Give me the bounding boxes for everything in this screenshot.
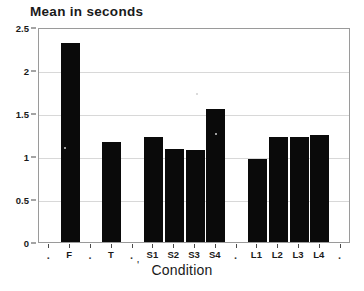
x-tick-label: . [47, 249, 50, 261]
x-tick-label: . [338, 249, 341, 261]
x-tick-mark [298, 244, 299, 248]
y-tick-label: 1.5 [16, 109, 29, 120]
x-tick-label: . [88, 249, 91, 261]
plot-area [38, 28, 350, 243]
x-axis: .F.T.S1S2S3S4.L1L2L3L4. [38, 244, 350, 262]
x-tick-mark [236, 244, 237, 248]
x-tick-mark [340, 244, 341, 248]
x-tick-label: F [66, 249, 72, 260]
x-tick-mark [319, 244, 320, 248]
x-tick-mark [132, 244, 133, 248]
x-tick-mark [90, 244, 91, 248]
x-tick-mark [215, 244, 216, 248]
bar-S3 [186, 150, 205, 242]
x-tick-label: . [130, 249, 133, 261]
x-tick-mark [194, 244, 195, 248]
bar-F [61, 43, 80, 242]
y-tick-mark [31, 243, 36, 244]
x-tick-mark [256, 244, 257, 248]
bar-L3 [290, 137, 309, 242]
x-tick-label: L3 [292, 249, 303, 260]
bar-L1 [248, 159, 267, 242]
x-tick-mark [48, 244, 49, 248]
x-tick-mark [277, 244, 278, 248]
x-axis-title: Condition [0, 262, 364, 278]
x-tick-label: T [108, 249, 114, 260]
scan-speck [196, 93, 198, 95]
x-tick-label: S2 [167, 249, 179, 260]
gridline [39, 72, 349, 73]
y-tick-mark [31, 28, 36, 29]
bar-S4 [206, 109, 225, 242]
y-axis: 00.511.522.5 [0, 28, 36, 243]
y-tick-mark [31, 114, 36, 115]
x-tick-label: L2 [272, 249, 283, 260]
x-tick-label: S4 [209, 249, 221, 260]
x-tick-mark [69, 244, 70, 248]
bar-S1 [144, 137, 163, 242]
x-tick-label: L4 [313, 249, 324, 260]
y-tick-label: 0.5 [16, 195, 29, 206]
x-tick-mark [111, 244, 112, 248]
scan-speck [215, 133, 217, 135]
bar-L2 [269, 137, 288, 242]
bar-T [102, 142, 121, 242]
bar-S2 [165, 149, 184, 242]
x-tick-label: . [234, 249, 237, 261]
y-tick-mark [31, 200, 36, 201]
y-tick-mark [31, 71, 36, 72]
y-tick-label: 2.5 [16, 23, 29, 34]
y-tick-label: 1 [24, 152, 29, 163]
chart-title: Mean in seconds [30, 4, 143, 19]
x-tick-mark [152, 244, 153, 248]
gridline [39, 115, 349, 116]
bar-chart: Mean in seconds 00.511.522.5 .F.T.S1S2S3… [0, 0, 364, 291]
y-tick-label: 0 [24, 238, 29, 249]
y-tick-label: 2 [24, 66, 29, 77]
x-tick-label: S1 [147, 249, 159, 260]
bar-L4 [310, 135, 329, 242]
x-tick-mark [173, 244, 174, 248]
y-tick-mark [31, 157, 36, 158]
x-tick-label: S3 [188, 249, 200, 260]
x-tick-label: L1 [251, 249, 262, 260]
scan-speck [64, 147, 66, 149]
